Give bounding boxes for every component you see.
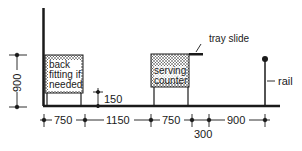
dim-300: 300 (194, 128, 212, 140)
servery-layout-diagram: back fitting if needed serving counter t… (0, 0, 302, 151)
dim-1150: 1150 (106, 114, 130, 126)
dim-750-b: 750 (162, 114, 180, 126)
label-tray-slide: tray slide (209, 33, 249, 44)
dim-750-a: 750 (54, 114, 72, 126)
label-rail: rail (278, 75, 293, 87)
dim-900: 900 (227, 114, 245, 126)
tray-slide (189, 44, 203, 56)
label-back-fitting-3: needed (49, 79, 82, 90)
label-serving-2: counter (154, 75, 188, 86)
dim-150: 150 (104, 93, 122, 105)
rail (262, 56, 275, 106)
dim-height-900: 900 (11, 74, 23, 92)
